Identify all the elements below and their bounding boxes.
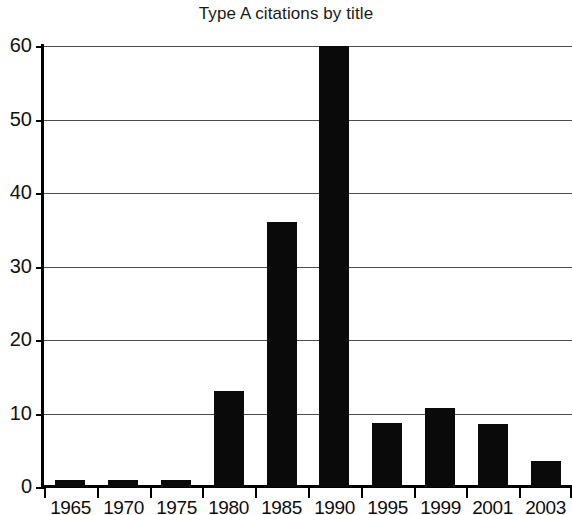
bar-chart-figure: Type A citations by title 0102030405060 … <box>0 0 572 515</box>
x-axis-tick-label: 1985 <box>255 497 308 515</box>
x-axis-tick-label: 2001 <box>466 497 519 515</box>
x-axis-tick-label: 2003 <box>519 497 572 515</box>
x-axis-tick-label: 1970 <box>97 497 150 515</box>
x-axis-tick-label: 1975 <box>150 497 203 515</box>
x-axis-ticks-group: 1965197019751980198519901995199920012003 <box>0 0 572 515</box>
x-axis-tick-label: 1990 <box>308 497 361 515</box>
x-axis-tick-label: 1980 <box>202 497 255 515</box>
x-axis-tick-label: 1965 <box>44 497 97 515</box>
x-axis-tick-label: 1999 <box>414 497 467 515</box>
x-axis-tick-label: 1995 <box>361 497 414 515</box>
